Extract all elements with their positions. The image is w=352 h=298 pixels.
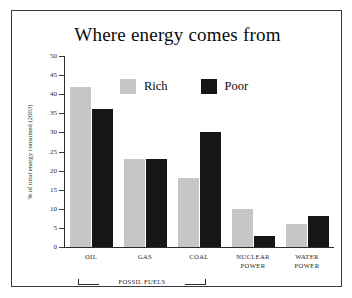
y-tick-mark-icon	[59, 113, 64, 114]
bar-group	[286, 56, 329, 247]
x-axis-label-line: WATER	[280, 252, 334, 261]
y-tick-label: 30	[50, 128, 57, 136]
x-axis-label: OIL	[64, 252, 118, 261]
bar-group	[178, 56, 221, 247]
bar-poor	[254, 236, 275, 247]
bar-poor	[200, 132, 221, 247]
y-axis-title: % of total energy consumed (2003)	[26, 56, 38, 248]
x-axis-label: COAL	[172, 252, 226, 261]
x-axis-line	[64, 247, 334, 248]
chart-title: Where energy comes from	[12, 24, 343, 46]
bar-poor	[308, 216, 329, 247]
plot-area: 05101520253035404550 OILGASCOALNUCLEARPO…	[64, 56, 334, 248]
fossil-fuels-bracket: FOSSIL FUELS	[75, 278, 209, 290]
y-tick-label: 50	[50, 52, 57, 60]
bar-group	[70, 56, 113, 247]
bar-rich	[70, 87, 91, 247]
y-tick-label: 25	[50, 147, 57, 155]
y-tick-mark-icon	[59, 247, 64, 248]
y-tick-mark-icon	[59, 209, 64, 210]
y-tick-label: 20	[50, 166, 57, 174]
bar-group	[232, 56, 275, 247]
y-tick-mark-icon	[59, 171, 64, 172]
y-tick-mark-icon	[59, 94, 64, 95]
x-axis-label: GAS	[118, 252, 172, 261]
chart-frame: Where energy comes from % of total energ…	[11, 10, 342, 287]
y-axis-line	[64, 56, 65, 248]
y-tick-label: 5	[54, 224, 58, 232]
y-tick-mark-icon	[59, 152, 64, 153]
y-tick-mark-icon	[59, 56, 64, 57]
x-axis-label-line: POWER	[226, 261, 280, 270]
x-axis-label-line: GAS	[118, 252, 172, 261]
x-axis-label-line: NUCLEAR	[226, 252, 280, 261]
y-tick-label: 45	[50, 71, 57, 79]
y-tick-mark-icon	[59, 132, 64, 133]
bracket-tick-right-icon	[205, 279, 206, 285]
y-tick-mark-icon	[59, 75, 64, 76]
bar-rich	[124, 159, 145, 247]
bar-rich	[178, 178, 199, 247]
bar-group	[124, 56, 167, 247]
y-tick-label: 10	[50, 205, 57, 213]
y-tick-label: 0	[54, 243, 58, 251]
y-tick-mark-icon	[59, 228, 64, 229]
x-axis-label: WATERPOWER	[280, 252, 334, 270]
y-tick-label: 40	[50, 90, 57, 98]
x-axis-label-line: OIL	[64, 252, 118, 261]
bar-rich	[286, 224, 307, 247]
bracket-line-right-icon	[185, 284, 206, 285]
y-tick-label: 35	[50, 109, 57, 117]
bar-poor	[92, 109, 113, 247]
y-tick-label: 15	[50, 186, 57, 194]
x-axis-label-line: POWER	[280, 261, 334, 270]
chart-figure: Where energy comes from % of total energ…	[0, 0, 352, 298]
y-tick-mark-icon	[59, 190, 64, 191]
bar-poor	[146, 159, 167, 247]
x-axis-label: NUCLEARPOWER	[226, 252, 280, 270]
bar-rich	[232, 209, 253, 247]
x-axis-label-line: COAL	[172, 252, 226, 261]
